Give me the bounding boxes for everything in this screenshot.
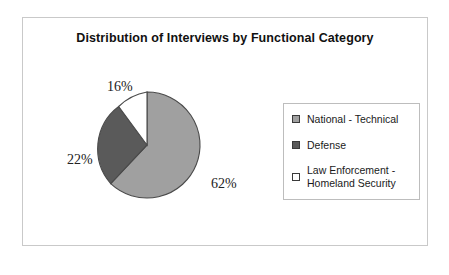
pie-chart <box>89 87 205 203</box>
legend-label-national-technical: National - Technical <box>307 113 398 126</box>
legend-label-defense: Defense <box>307 139 346 152</box>
pie-label-defense: 22% <box>67 153 93 167</box>
chart-legend: National - Technical Defense Law Enforce… <box>283 103 420 200</box>
legend-item-law-enforcement[interactable]: Law Enforcement - Homeland Security <box>292 164 413 189</box>
legend-item-defense[interactable]: Defense <box>292 139 413 152</box>
legend-swatch-icon-national-technical <box>292 115 300 123</box>
legend-swatch-icon-defense <box>292 141 300 149</box>
legend-item-national-technical[interactable]: National - Technical <box>292 113 413 126</box>
legend-label-law-enforcement: Law Enforcement - Homeland Security <box>307 164 396 189</box>
pie-label-national-technical: 62% <box>211 177 237 191</box>
pie-label-law-enforcement: 16% <box>107 80 133 94</box>
chart-frame: Distribution of Interviews by Functional… <box>22 17 428 246</box>
legend-swatch-icon-law-enforcement <box>292 173 300 181</box>
plot-area: 16% 22% 62% National - Technical Defense… <box>23 18 429 247</box>
